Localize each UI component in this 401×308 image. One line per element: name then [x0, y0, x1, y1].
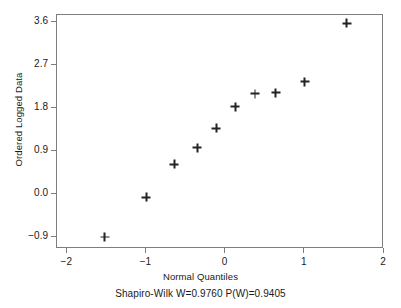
y-tick-label: 2.7	[34, 56, 48, 72]
data-point	[170, 160, 179, 169]
x-tick-mark	[383, 248, 384, 253]
data-point	[300, 77, 309, 86]
data-point	[142, 193, 151, 202]
data-point	[100, 233, 109, 242]
y-tick-label: 3.6	[34, 13, 48, 29]
shapiro-wilk-caption: Shapiro-Wilk W=0.9760 P(W)=0.9405	[0, 288, 401, 299]
y-tick-label: −0.9	[28, 228, 48, 244]
data-point	[212, 124, 221, 133]
x-tick-label: 0	[222, 255, 228, 268]
y-tick-mark	[51, 193, 56, 194]
y-tick-mark	[51, 107, 56, 108]
y-tick-label: 0.0	[34, 185, 48, 201]
data-point	[342, 19, 351, 28]
y-tick-mark	[51, 236, 56, 237]
qq-plot-figure: −0.90.00.91.82.73.6 −2−1012 Ordered Logg…	[0, 0, 401, 308]
data-point	[271, 88, 280, 97]
data-point	[193, 143, 202, 152]
y-axis-title: Ordered Logged Data	[13, 40, 24, 200]
x-tick-label: 2	[380, 255, 386, 268]
x-tick-label: −1	[140, 255, 151, 268]
data-point	[250, 89, 259, 98]
y-tick-mark	[51, 150, 56, 151]
plot-frame	[56, 14, 383, 248]
x-tick-label: 1	[301, 255, 307, 268]
x-tick-mark	[145, 248, 146, 253]
x-axis-title: Normal Quantiles	[0, 271, 401, 282]
y-tick-mark	[51, 64, 56, 65]
x-tick-mark	[66, 248, 67, 253]
x-tick-mark	[224, 248, 225, 253]
y-tick-label: 1.8	[34, 99, 48, 115]
y-tick-mark	[51, 21, 56, 22]
data-point	[231, 102, 240, 111]
x-tick-label: −2	[61, 255, 72, 268]
x-tick-mark	[303, 248, 304, 253]
y-tick-label: 0.9	[34, 142, 48, 158]
plot-area	[57, 15, 382, 247]
